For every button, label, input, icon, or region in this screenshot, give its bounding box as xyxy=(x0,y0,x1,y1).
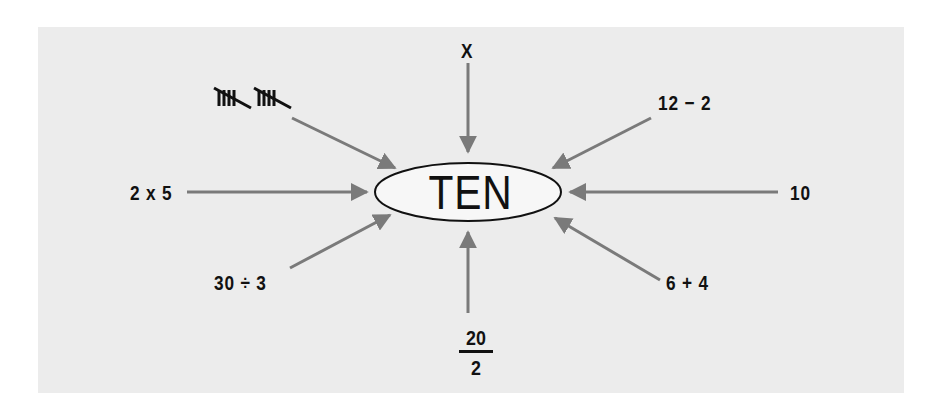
label-division: 30 ÷ 3 xyxy=(214,272,267,293)
fraction-numerator: 20 xyxy=(459,327,493,353)
arrow-from-addition xyxy=(555,218,660,280)
label-multiplication: 2 x 5 xyxy=(130,182,172,203)
arrow-from-tally xyxy=(292,118,395,168)
label-roman: X xyxy=(461,40,473,61)
label-numeral: 10 xyxy=(790,182,811,203)
fraction-denominator: 2 xyxy=(459,353,493,378)
center-label: TEN xyxy=(376,164,564,220)
label-subtraction: 12 − 2 xyxy=(658,92,711,113)
tally-marks-icon xyxy=(214,88,291,108)
arrow-from-subtraction xyxy=(553,118,651,168)
label-fraction: 20 2 xyxy=(456,327,496,378)
arrow-from-division xyxy=(290,215,390,268)
label-addition: 6 + 4 xyxy=(666,272,709,293)
